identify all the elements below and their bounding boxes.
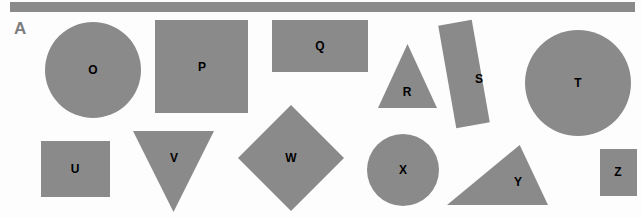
shapes-figure: A OPQRSTUVWXYZ xyxy=(0,0,641,218)
shape-r xyxy=(378,44,437,108)
shape-t xyxy=(525,30,631,136)
shape-p xyxy=(155,20,248,113)
shape-o xyxy=(45,22,141,118)
panel-label: A xyxy=(14,20,27,37)
shape-u xyxy=(41,141,110,197)
shape-q xyxy=(272,20,368,72)
shape-w xyxy=(238,105,344,211)
header-bar xyxy=(10,2,635,12)
shape-z xyxy=(600,149,637,196)
shape-x xyxy=(367,134,439,206)
shape-v xyxy=(133,131,214,212)
shape-y xyxy=(447,145,548,205)
shape-s xyxy=(438,20,490,128)
